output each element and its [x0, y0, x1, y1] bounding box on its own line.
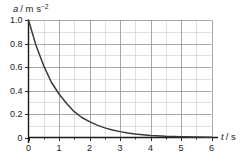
- x-tick-label: 2: [87, 143, 92, 153]
- x-tick-label: 4: [148, 143, 153, 153]
- x-tick-label: 1: [56, 143, 61, 153]
- exponential-decay-chart: 0123456 00.20.40.60.81.0 a/ m s−2 t/ s: [0, 0, 240, 167]
- x-axis-label: t/ s: [221, 131, 236, 142]
- x-tick-label: 0: [26, 143, 31, 153]
- x-tick-label: 6: [209, 143, 214, 153]
- y-tick-label: 0: [17, 133, 22, 143]
- x-tick-label: 3: [117, 143, 122, 153]
- y-tick-label: 1.0: [10, 15, 23, 25]
- y-tick-label: 0.4: [10, 86, 23, 96]
- x-tick-label: 5: [178, 143, 183, 153]
- y-tick-label: 0.6: [10, 62, 23, 72]
- y-tick-label: 0.8: [10, 39, 23, 49]
- chart-svg: 0123456 00.20.40.60.81.0 a/ m s−2 t/ s: [0, 0, 240, 167]
- y-tick-label: 0.2: [10, 109, 23, 119]
